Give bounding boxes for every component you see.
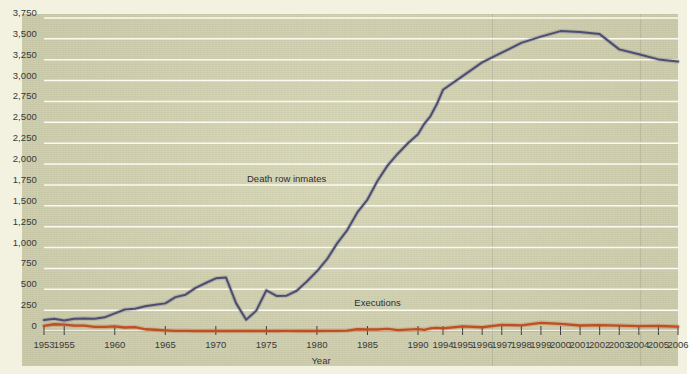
x-axis-tick-label: 1975: [256, 339, 277, 350]
y-axis-tick-label: 0: [0, 320, 37, 331]
y-axis-tick-label: 2,000: [0, 153, 37, 164]
y-axis-tick-label: 1,250: [0, 216, 37, 227]
y-axis-tick-label: 3,250: [0, 49, 37, 60]
x-axis-tick-label: 1970: [205, 339, 226, 350]
x-axis-tick-label: 1998: [511, 339, 532, 350]
x-axis-tick-label: 1985: [357, 339, 378, 350]
x-axis-tick-label: 1990: [407, 339, 428, 350]
x-axis-tick-label: 2001: [570, 339, 591, 350]
x-axis-tick-label: 1994: [432, 339, 453, 350]
x-axis-tick-label: 2006: [667, 339, 688, 350]
y-axis-tick-label: 1,000: [0, 237, 37, 248]
x-axis-tick-label: 1996: [472, 339, 493, 350]
annotation-death-row-inmates: Death row inmates: [247, 173, 326, 184]
y-axis-tick-label: 250: [0, 299, 37, 310]
y-axis-tick-label: 3,750: [0, 7, 37, 18]
y-axis-tick-label: 750: [0, 257, 37, 268]
series-line-halo: [44, 31, 678, 320]
x-axis-tick-label: 1997: [491, 339, 512, 350]
x-axis-title: Year: [311, 355, 330, 366]
x-axis-tick-label: 1955: [54, 339, 75, 350]
x-axis-tick-label: 1995: [452, 339, 473, 350]
y-axis-tick-label: 1,750: [0, 174, 37, 185]
x-axis-tick-label: 1980: [306, 339, 327, 350]
x-axis-tick-label: 1999: [530, 339, 551, 350]
y-axis-tick-label: 1,500: [0, 195, 37, 206]
x-axis-tick-label: 2002: [589, 339, 610, 350]
y-axis-tick-label: 3,500: [0, 28, 37, 39]
series-line-death-row-inmates: [44, 31, 678, 320]
x-axis-tick-label: 2003: [609, 339, 630, 350]
x-axis-tick-label: 2004: [628, 339, 649, 350]
annotation-executions: Executions: [354, 297, 400, 308]
x-axis-tick-label: 1960: [104, 339, 125, 350]
y-axis-tick-label: 2,500: [0, 111, 37, 122]
x-axis-tick-label: 2000: [550, 339, 571, 350]
x-axis-tick-label: 1953: [33, 339, 54, 350]
series-group: [44, 31, 678, 331]
gridlines-group: [44, 18, 678, 331]
x-axis-tick-label: 2005: [648, 339, 669, 350]
y-axis-tick-label: 500: [0, 278, 37, 289]
x-axis-tick-label: 1965: [155, 339, 176, 350]
y-axis-tick-label: 3,000: [0, 70, 37, 81]
y-axis-tick-label: 2,750: [0, 90, 37, 101]
y-axis-tick-label: 2,250: [0, 132, 37, 143]
